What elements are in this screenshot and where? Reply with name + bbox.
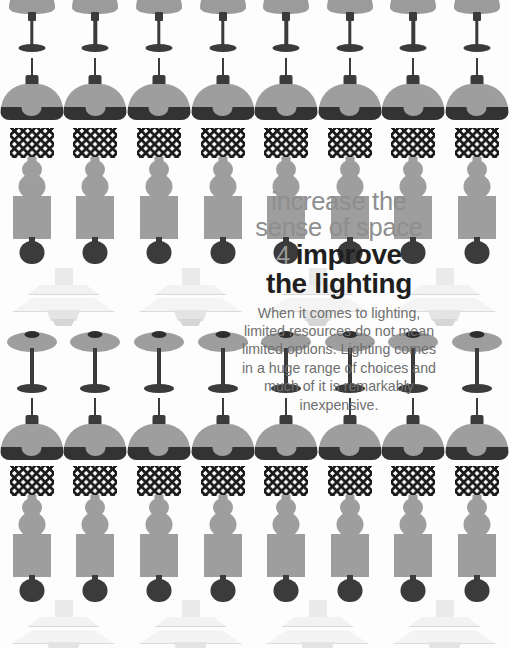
gourd-lamp-neck [27,157,36,162]
lamp-item [254,58,318,128]
gourd-lamp-lower-bulb [18,174,45,199]
pendant-bulb-glow [403,440,423,456]
pendant-dome-interior [127,447,190,460]
pendant-bulb-glow [276,100,296,116]
bell-lamp-stem [412,19,415,47]
rectangular-lamp-round-base [146,579,171,602]
ph-lamp-tier-3 [172,642,210,648]
pendant-cord [158,58,160,77]
harlequin-patterned-shade [10,466,54,496]
bell-lamp-stem [157,19,160,47]
pendant-dome-interior [255,447,318,460]
gourd-lamp-lower-bulb [18,512,45,537]
pendant-cord [158,398,160,417]
pendant-bulb-glow [467,100,487,116]
bell-lamp-base [18,44,45,52]
bell-lamp-shade [263,0,309,14]
pendant-cap [407,75,420,86]
pendant-cap [89,415,102,426]
pendant-dome-shade [445,424,508,460]
pendant-cap [216,415,229,426]
pendant-dome-interior [255,107,318,120]
pendant-dome-interior [0,447,63,460]
lamp-item [445,534,509,602]
gourd-lamp-lower-bulb [463,512,490,537]
lamp-item [0,268,127,330]
bell-lamp-shade [327,0,373,14]
ph-lamp-tier-1 [282,617,354,627]
gourd-lamp-neck [91,157,100,162]
pendant-bulb-glow [467,440,487,456]
ph-lamp-tier-1 [28,285,100,295]
ph-pendant-row-2 [0,600,509,648]
disc-lamp-base [80,384,110,393]
pendant-cap [280,415,293,426]
gourd-lamp-upper-bulb [213,498,233,517]
pendant-cap [343,75,356,86]
rectangular-lamp-shade [76,534,114,577]
bell-lamp-stem [348,19,351,47]
ph-lamp-stem [55,600,73,620]
lamp-item [127,58,191,128]
pendant-dome-shade [318,424,381,460]
lamp-item [191,534,255,602]
rectangular-lamp-neck [92,575,98,583]
pendant-dome-shade [191,84,254,120]
pendant-bulb-glow [22,100,42,116]
rectangular-lamp-shade [13,196,51,239]
rectangular-lamp-neck [474,575,480,583]
gourd-lamp-upper-bulb [403,160,423,179]
lamp-item [64,0,128,58]
disc-lamp-cap [151,331,166,338]
pendant-dome-shade [318,84,381,120]
disc-lamp-base [144,384,174,393]
lamp-item [0,196,64,264]
bell-lamp-shade [200,0,246,14]
disc-lamp-cap [88,331,103,338]
rectangular-lamp-neck [347,575,353,583]
rectangular-lamp-round-base [19,579,44,602]
pendant-dome-shade [255,84,318,120]
bell-lamp-base [400,44,427,52]
harlequin-patterned-shade [328,466,372,496]
gourd-lamp-upper-bulb [213,160,233,179]
lamp-item [64,196,128,264]
bell-lamp-neck [91,12,99,21]
pendant-cap [216,75,229,86]
disc-lamp-base [17,384,47,393]
lamp-item [382,466,446,538]
lamp-item [254,0,318,58]
harlequin-patterned-shade [137,128,181,158]
rectangular-lamp-neck [410,575,416,583]
harlequin-patterned-shade [455,128,499,158]
pendant-dome-interior [318,107,381,120]
pendant-cap [343,415,356,426]
lamp-item [0,58,64,128]
rectangular-lamp-round-base [83,579,108,602]
pendant-bulb-glow [85,440,105,456]
lamp-item [64,398,128,468]
lamp-item [127,466,191,538]
pendant-cap [470,75,483,86]
lamp-item [0,330,64,398]
gourd-lamp-upper-bulb [22,498,42,517]
gourd-lamp-lower-bulb [336,512,363,537]
ph-lamp-tier-3 [299,642,337,648]
bell-lamp-neck [28,12,36,21]
harlequin-lamp-row-2 [0,466,509,538]
pendant-bulb-glow [22,440,42,456]
pendant-cap [407,415,420,426]
gourd-lamp-neck [345,157,354,162]
pendant-cord [31,58,33,77]
bell-lamp-base [336,44,363,52]
pendant-dome-shade [64,424,127,460]
bell-lamp-neck [282,12,290,21]
harlequin-patterned-shade [328,128,372,158]
harlequin-patterned-shade [391,466,435,496]
pendant-cord [94,398,96,417]
ph-lamp-arc-detail [163,625,219,640]
pendant-bulb-glow [403,100,423,116]
ph-lamp-tier-1 [28,617,100,627]
ph-lamp-tier-3 [45,642,83,648]
ph-lamp-tier-2 [12,298,115,312]
